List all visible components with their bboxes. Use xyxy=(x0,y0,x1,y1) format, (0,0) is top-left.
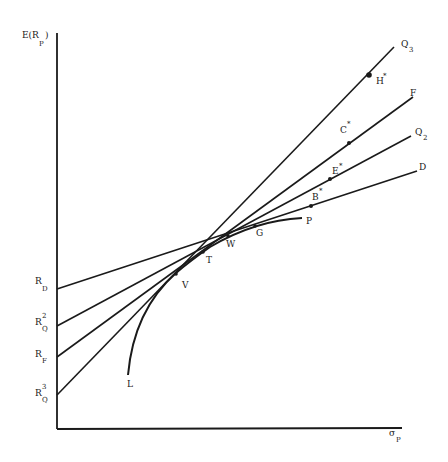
svg-text:*: * xyxy=(319,187,323,195)
svg-text:σ: σ xyxy=(389,428,395,438)
svg-text:Q: Q xyxy=(42,325,48,333)
svg-text:R: R xyxy=(35,317,42,327)
y-axis-label: E(R P ) xyxy=(22,30,49,48)
label-l: L xyxy=(127,379,133,389)
svg-text:): ) xyxy=(45,30,49,40)
svg-text:Q: Q xyxy=(42,396,48,404)
label-q3: Q 3 xyxy=(401,39,413,54)
intercept-rf: R F xyxy=(35,349,47,365)
point-w xyxy=(226,234,230,238)
svg-text:B: B xyxy=(312,192,319,202)
label-t: T xyxy=(206,255,212,265)
svg-text:2: 2 xyxy=(42,312,46,320)
svg-text:2: 2 xyxy=(423,134,427,142)
svg-text:E: E xyxy=(332,166,339,176)
label-w: W xyxy=(226,239,236,249)
point-t xyxy=(201,250,205,254)
intercept-rq3: R 3 Q xyxy=(35,383,48,404)
point-v xyxy=(174,272,178,276)
diagram-canvas: E(R P ) σ P R D R 2 Q R F R 3 Q Q 3 F Q … xyxy=(0,0,448,462)
svg-text:C: C xyxy=(340,125,347,135)
label-h-star: H * xyxy=(376,72,387,86)
svg-text:*: * xyxy=(347,120,351,128)
line-q2 xyxy=(57,136,411,326)
svg-text:R: R xyxy=(35,276,42,286)
x-axis xyxy=(57,428,402,429)
svg-text:F: F xyxy=(42,357,47,365)
intercept-rq2: R 2 Q xyxy=(35,312,48,333)
svg-text:Q: Q xyxy=(401,39,408,49)
svg-text:R: R xyxy=(35,388,42,398)
line-q3 xyxy=(57,47,394,395)
svg-text:3: 3 xyxy=(409,46,413,54)
label-b-star: B * xyxy=(312,187,323,202)
svg-text:*: * xyxy=(383,72,387,80)
point-e-star xyxy=(328,177,332,181)
label-v: V xyxy=(181,280,189,290)
point-h-star xyxy=(366,72,372,78)
label-d: D xyxy=(419,162,426,172)
svg-text:D: D xyxy=(42,285,48,293)
svg-text:P: P xyxy=(39,40,44,48)
line-f xyxy=(57,97,413,357)
svg-text:*: * xyxy=(339,162,343,170)
label-q2: Q 2 xyxy=(415,127,427,142)
svg-text:Q: Q xyxy=(415,127,422,137)
label-c-star: C * xyxy=(340,120,351,135)
point-c-star xyxy=(347,141,351,145)
svg-text:E(R: E(R xyxy=(22,30,39,40)
label-p: P xyxy=(306,216,312,226)
svg-text:3: 3 xyxy=(42,383,46,391)
x-axis-label: σ P xyxy=(389,428,401,444)
label-f: F xyxy=(410,88,416,98)
label-g: G xyxy=(256,228,263,238)
intercept-rd: R D xyxy=(35,276,48,293)
svg-text:P: P xyxy=(396,436,401,444)
point-b-star xyxy=(309,204,313,208)
svg-text:R: R xyxy=(35,349,42,359)
